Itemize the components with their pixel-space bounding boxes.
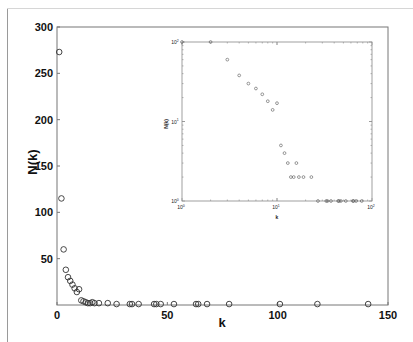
- main-y-axis: 50100150200250300: [35, 21, 60, 265]
- main-x-axis-label: k: [218, 315, 226, 330]
- x-tick-label: 100: [268, 309, 286, 321]
- data-point: [365, 301, 371, 307]
- x-tick-label: 150: [379, 309, 397, 321]
- inset-x-tick-label: 100: [177, 204, 185, 211]
- y-tick-label: 200: [35, 114, 53, 126]
- main-y-axis-label: N(k): [25, 149, 40, 174]
- x-tick-label: 50: [161, 309, 173, 321]
- data-point: [114, 301, 120, 307]
- inset-plot-frame: [182, 42, 372, 201]
- inset-x-tick-label: 102: [367, 204, 375, 211]
- inset-x-axis-label: k: [276, 214, 279, 220]
- y-tick-label: 50: [41, 253, 53, 265]
- chart-canvas: 50100150200250300 050100150 k N(k) 10010…: [0, 0, 413, 342]
- inset-plot: 100101102100101102 k N(k): [163, 39, 375, 221]
- y-tick-label: 250: [35, 67, 53, 79]
- y-tick-label: 300: [35, 21, 53, 33]
- x-tick-label: 0: [54, 309, 60, 321]
- y-tick-label: 100: [35, 206, 53, 218]
- data-point: [61, 247, 67, 253]
- inset-y-tick-label: 101: [171, 118, 179, 125]
- inset-y-axis-label: N(k): [163, 119, 169, 129]
- data-point: [226, 301, 232, 307]
- data-point: [63, 267, 69, 273]
- data-point: [204, 301, 210, 307]
- data-point: [59, 196, 65, 202]
- data-point: [171, 301, 177, 307]
- data-point: [315, 301, 321, 307]
- inset-y-tick-label: 102: [171, 39, 179, 46]
- data-point: [136, 301, 142, 307]
- inset-x-tick-label: 101: [272, 204, 280, 211]
